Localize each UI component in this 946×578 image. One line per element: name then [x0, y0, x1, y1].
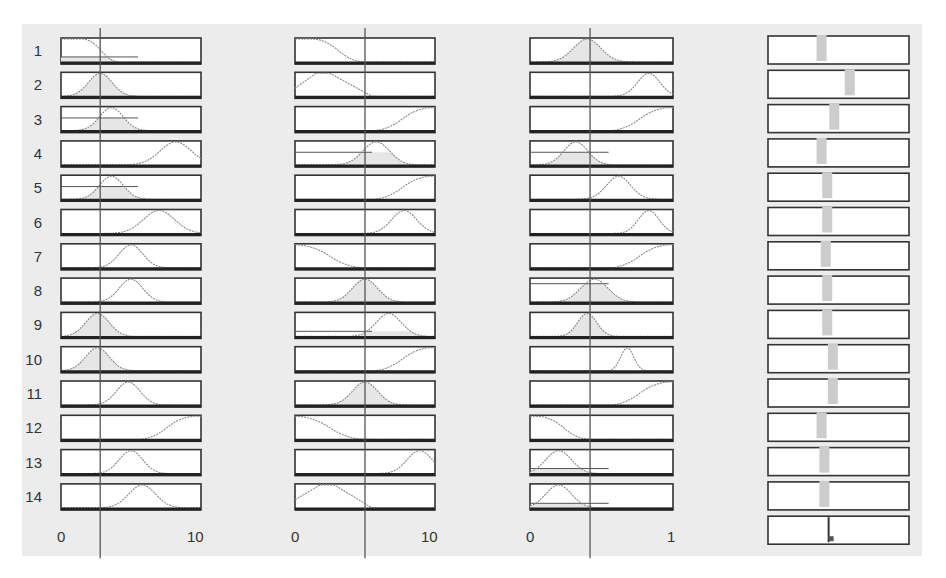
rule-number-label: 14 — [12, 488, 42, 505]
rule-11-input-3-plot[interactable] — [530, 381, 673, 407]
axis-min-label: 0 — [526, 528, 534, 545]
input-column-1 — [61, 28, 201, 558]
rule-4-output-plot[interactable] — [768, 138, 909, 167]
rule-6-output-plot[interactable] — [768, 207, 909, 236]
rule-1-input-1-plot[interactable] — [61, 38, 201, 64]
input-column-2 — [295, 28, 435, 558]
rule-6-input-3-plot[interactable] — [530, 210, 673, 236]
rule-12-input-3-plot[interactable] — [530, 415, 673, 441]
rule-5-output-plot[interactable] — [768, 172, 909, 201]
rule-11-input-1-plot[interactable] — [61, 381, 201, 407]
aggregated-output-plot[interactable] — [768, 516, 909, 544]
rule-8-input-3-plot[interactable] — [530, 278, 673, 304]
rule-3-input-3-plot[interactable] — [530, 107, 673, 133]
rule-1-output-plot[interactable] — [768, 35, 909, 64]
rule-viewer-stage: 123456789101112131401001001 — [0, 0, 946, 578]
rule-2-output-plot[interactable] — [768, 69, 909, 98]
rule-viewer-plot — [0, 0, 946, 578]
rule-5-input-3-plot[interactable] — [530, 175, 673, 201]
rule-13-output-plot[interactable] — [768, 447, 909, 476]
rule-number-label: 1 — [12, 42, 42, 59]
rule-number-label: 3 — [12, 111, 42, 128]
rule-2-input-1-plot[interactable] — [61, 72, 201, 98]
rule-12-output-plot[interactable] — [768, 412, 909, 441]
rule-14-input-3-plot[interactable] — [530, 484, 673, 510]
rule-1-input-3-plot[interactable] — [530, 38, 673, 64]
rule-12-input-1-plot[interactable] — [61, 415, 201, 441]
rule-5-input-1-plot[interactable] — [61, 175, 201, 201]
rule-4-input-3-plot[interactable] — [530, 141, 673, 167]
rule-6-input-1-plot[interactable] — [61, 210, 201, 236]
rule-9-output-plot[interactable] — [768, 309, 909, 338]
rule-2-input-3-plot[interactable] — [530, 72, 673, 98]
rule-3-output-plot[interactable] — [768, 104, 909, 133]
rule-8-output-plot[interactable] — [768, 275, 909, 304]
rule-8-input-1-plot[interactable] — [61, 278, 201, 304]
rule-10-input-1-plot[interactable] — [61, 347, 201, 373]
rule-7-input-3-plot[interactable] — [530, 244, 673, 270]
rule-9-input-1-plot[interactable] — [61, 312, 201, 338]
rule-number-label: 9 — [12, 316, 42, 333]
rule-number-label: 8 — [12, 282, 42, 299]
rule-13-input-1-plot[interactable] — [61, 450, 201, 476]
rule-7-input-1-plot[interactable] — [61, 244, 201, 270]
rule-7-output-plot[interactable] — [768, 241, 909, 270]
rule-13-input-3-plot[interactable] — [530, 450, 673, 476]
axis-min-label: 0 — [57, 528, 65, 545]
axis-max-label: 10 — [421, 528, 438, 545]
axis-max-label: 10 — [187, 528, 204, 545]
output-column — [768, 35, 909, 544]
rule-number-label: 7 — [12, 248, 42, 265]
rule-number-label: 11 — [12, 385, 42, 402]
rule-10-output-plot[interactable] — [768, 344, 909, 373]
axis-min-label: 0 — [291, 528, 299, 545]
rule-number-label: 13 — [12, 454, 42, 471]
rule-number-label: 5 — [12, 179, 42, 196]
rule-4-input-1-plot[interactable] — [61, 141, 201, 167]
rule-number-label: 12 — [12, 419, 42, 436]
rule-9-input-3-plot[interactable] — [530, 312, 673, 338]
rule-number-label: 4 — [12, 145, 42, 162]
rule-3-input-1-plot[interactable] — [61, 107, 201, 133]
rule-14-output-plot[interactable] — [768, 481, 909, 510]
input-column-3 — [530, 28, 673, 558]
rule-14-input-1-plot[interactable] — [61, 484, 201, 510]
rule-number-label: 6 — [12, 214, 42, 231]
rule-10-input-3-plot[interactable] — [530, 347, 673, 373]
rule-number-label: 10 — [12, 351, 42, 368]
axis-max-label: 1 — [667, 528, 675, 545]
rule-11-output-plot[interactable] — [768, 378, 909, 407]
rule-number-label: 2 — [12, 76, 42, 93]
